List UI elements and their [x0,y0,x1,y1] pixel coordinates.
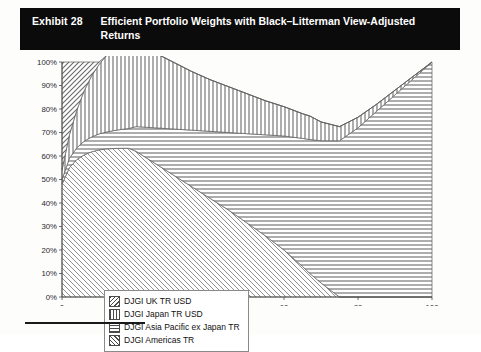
exhibit-number-label: Exhibit 28 [20,8,83,27]
legend-item-label: DJGI UK TR USD [124,295,191,308]
exhibit-title-bar: Exhibit 28 Efficient Portfolio Weights w… [20,8,460,50]
tick-label: 80 [354,303,363,306]
tick-label: 10% [41,269,57,278]
chart-legend: DJGI UK TR USD DJGI Japan TR USD DJGI As… [104,290,249,352]
chart-container: 0%10%20%30%40%50%60%70%80%90%100%0204060… [20,56,460,306]
stacked-area-chart: 0%10%20%30%40%50%60%70%80%90%100%0204060… [20,56,460,306]
tick-label: 20% [41,246,57,255]
tick-label: 30% [41,222,57,231]
tick-label: 60 [280,303,289,306]
hatch-swatch-icon [109,309,120,320]
legend-item[interactable]: DJGI Japan TR USD [109,308,240,321]
tick-label: 40% [41,199,57,208]
legend-item-label: DJGI Americas TR [124,334,194,347]
legend-item[interactable]: DJGI Americas TR [109,334,240,347]
tick-label: 90% [41,81,57,90]
tick-label: 0% [46,293,57,302]
chart-areas [62,56,432,297]
footer-rule [25,322,145,324]
tick-label: 50% [41,175,57,184]
tick-label: 70% [41,128,57,137]
tick-label: 0 [60,303,65,306]
tick-label: 100% [37,58,57,67]
tick-label: 60% [41,152,57,161]
tick-label: 100 [425,303,439,306]
page-title: Efficient Portfolio Weights with Black–L… [83,8,460,42]
tick-label: 80% [41,105,57,114]
hatch-swatch-icon [109,335,120,346]
legend-item[interactable]: DJGI UK TR USD [109,295,240,308]
legend-item-label: DJGI Japan TR USD [124,308,203,321]
hatch-swatch-icon [109,296,120,307]
